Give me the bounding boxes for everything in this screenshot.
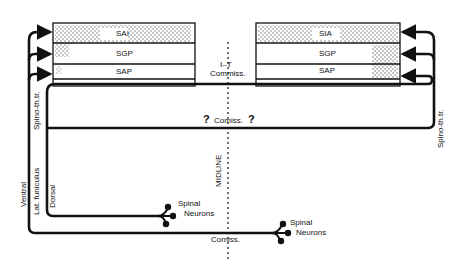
diagram-canvas (0, 0, 460, 261)
right-branch-sgp (403, 54, 434, 60)
ventral-branch-sgp (29, 54, 50, 60)
ventral-label: Ventral (20, 182, 28, 207)
right-layer-sia-label: SIA (319, 30, 332, 38)
right-layer-sap-label: SAP (319, 67, 335, 75)
spinal-neurons-1-label-line2: Neurons (184, 210, 214, 218)
ventral-pathway (29, 32, 275, 233)
question-mark-right: ? (248, 114, 255, 125)
spinal-neurons-1-terminal (158, 205, 175, 226)
spino-th-left-label: Spino-th.tr. (33, 91, 41, 130)
dorsal-pathway (47, 84, 196, 216)
midline-label: MIDLINE (215, 155, 223, 187)
comiss-middle-label: Comiss. (214, 117, 243, 125)
spinal-neurons-2-terminal (272, 222, 290, 243)
spinal-neurons-2-label-line1: Spinal (290, 219, 312, 227)
it-commiss-label-line2: Commiss. (210, 70, 246, 78)
ventral-branch-sap (29, 74, 50, 80)
question-mark-left: ? (203, 114, 210, 125)
right-layer-sgp-label: SGP (319, 50, 336, 58)
dorsal-label: Dorsal (49, 185, 57, 208)
left-layer-sgp-label: SGP (116, 50, 133, 58)
it-commiss-label-line1: I–T (220, 61, 232, 69)
spino-th-right-label: Spino-th.tr. (437, 109, 445, 148)
left-layer-sap-label: SAP (116, 68, 132, 76)
spinal-neurons-2-label-line2: Neurons (296, 229, 326, 237)
spinal-neurons-1-label-line1: Spinal (178, 200, 200, 208)
lat-funiculus-label: Lat. funiculus (33, 168, 41, 215)
comiss-bottom-label: Comiss. (211, 236, 240, 244)
left-layer-sai-label: SAI (116, 30, 129, 38)
